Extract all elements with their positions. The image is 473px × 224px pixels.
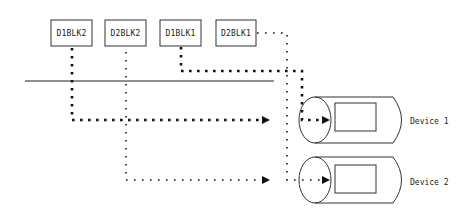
device-1-cylinder: [299, 97, 402, 143]
block-label: D2BLK2: [110, 29, 140, 38]
device-2-cylinder: [299, 157, 402, 203]
block-label: D1BLK2: [56, 29, 86, 38]
block-d2blk1: D2BLK1: [216, 20, 256, 46]
device-2-label: Device 2: [410, 178, 449, 187]
device-1-slot: [335, 103, 376, 131]
block-d1blk1: D1BLK1: [160, 20, 201, 46]
block-label: D2BLK1: [221, 29, 251, 38]
block-to-device-diagram: D1BLK2 D2BLK2 D1BLK1 D2BLK1 Device 1 Dev…: [0, 0, 473, 224]
path-d1blk2-device1: [72, 48, 268, 120]
device-2-slot: [335, 165, 376, 193]
device-1-label: Device 1: [410, 117, 449, 126]
block-d2blk2: D2BLK2: [105, 20, 146, 46]
block-d1blk2: D1BLK2: [51, 20, 92, 46]
block-label: D1BLK1: [165, 29, 195, 38]
path-d2blk1-device2: [257, 33, 328, 180]
path-d1blk1-device1: [181, 47, 328, 120]
